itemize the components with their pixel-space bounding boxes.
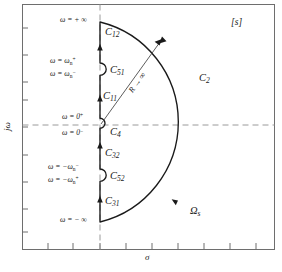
sigma-axis-label: σ xyxy=(145,253,149,262)
omega-neg-wn-plus-label: ω = −ωn+ xyxy=(48,176,79,185)
figure-canvas xyxy=(0,0,282,272)
nyquist-contour-figure: [s] ω = + ∞ ω = ωn+ ω = ωn− ω = 0+ ω = 0… xyxy=(0,0,282,272)
segment-label-C12: C12 xyxy=(105,27,120,38)
omega-s-contour-label: Ωs xyxy=(190,206,201,217)
omega-zero-plus-label: ω = 0+ xyxy=(62,113,83,121)
omega-zero-minus-label: ω = 0− xyxy=(62,129,83,137)
segment-label-C52: C52 xyxy=(110,171,125,182)
segment-label-C31: C31 xyxy=(105,196,120,207)
omega-neg-wn-minus-label: ω = −ωn− xyxy=(48,163,79,172)
omega-minus-infinity-label: ω = − ∞ xyxy=(60,216,87,224)
segment-label-C11: C11 xyxy=(103,91,117,102)
segment-label-C51: C51 xyxy=(110,65,125,76)
segment-label-C32: C32 xyxy=(105,148,120,159)
omega-plus-infinity-label: ω = + ∞ xyxy=(60,16,87,24)
omega-wn-minus-label: ω = ωn− xyxy=(50,70,75,79)
segment-label-C4: C4 xyxy=(110,127,121,138)
plot-frame xyxy=(23,5,275,250)
jomega-axis-label: jω xyxy=(3,122,12,131)
segment-label-C2: C2 xyxy=(199,73,210,84)
omega-wn-plus-label: ω = ωn+ xyxy=(50,57,75,66)
s-plane-label: [s] xyxy=(231,18,242,28)
